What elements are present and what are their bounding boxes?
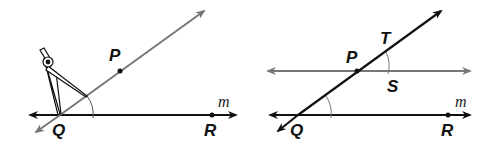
compass-icon bbox=[40, 48, 87, 115]
label-r: R bbox=[441, 121, 454, 140]
point-p bbox=[355, 69, 360, 74]
left-figure: P Q R m bbox=[30, 11, 236, 140]
label-r: R bbox=[204, 121, 217, 140]
label-t: T bbox=[380, 29, 392, 48]
point-r bbox=[446, 113, 451, 118]
transversal bbox=[298, 11, 441, 115]
point-r bbox=[210, 113, 215, 118]
right-figure: P T S Q R m bbox=[268, 11, 470, 140]
label-m: m bbox=[218, 93, 230, 110]
label-p: P bbox=[346, 48, 358, 67]
label-q: Q bbox=[290, 121, 303, 140]
point-p bbox=[118, 69, 123, 74]
label-q: Q bbox=[52, 121, 65, 140]
geometry-figures: P Q R m P T S Q R m bbox=[0, 0, 500, 145]
label-m: m bbox=[455, 93, 467, 110]
label-s: S bbox=[387, 77, 399, 96]
label-p: P bbox=[109, 46, 121, 65]
ray-qp bbox=[60, 11, 204, 115]
